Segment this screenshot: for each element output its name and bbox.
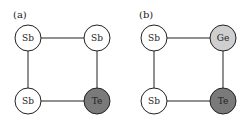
diagram-canvas: (a) Sb Sb Sb Te (b) Sb <box>0 0 252 122</box>
svg-text:Sb: Sb <box>91 33 103 43</box>
svg-text:Sb: Sb <box>148 33 160 43</box>
atom-a-top-right: Sb <box>84 25 110 51</box>
svg-text:Sb: Sb <box>22 96 34 106</box>
svg-text:Sb: Sb <box>148 96 160 106</box>
svg-text:Sb: Sb <box>22 33 34 43</box>
svg-text:Te: Te <box>218 96 229 106</box>
svg-text:Ge: Ge <box>217 33 230 43</box>
panel-a-label: (a) <box>13 9 27 20</box>
panel-a: (a) Sb Sb Sb Te <box>13 9 110 114</box>
atom-b-top-right: Ge <box>210 25 236 51</box>
atom-a-bottom-right: Te <box>84 88 110 114</box>
atom-b-top-left: Sb <box>141 25 167 51</box>
panel-b-label: (b) <box>139 9 153 20</box>
svg-text:Te: Te <box>92 96 103 106</box>
atom-b-bottom-right: Te <box>210 88 236 114</box>
panel-b: (b) Sb Ge Sb Te <box>139 9 236 114</box>
atom-a-bottom-left: Sb <box>15 88 41 114</box>
atom-b-bottom-left: Sb <box>141 88 167 114</box>
atom-a-top-left: Sb <box>15 25 41 51</box>
